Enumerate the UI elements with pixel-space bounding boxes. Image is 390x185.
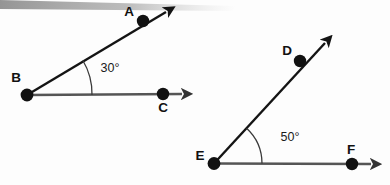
point-d-label: D (282, 43, 292, 58)
diagram-canvas: A B C 30° D E F 50° (0, 0, 390, 185)
point-e-label: E (195, 148, 204, 163)
point-a-dot (137, 15, 149, 27)
angle-measure-def: 50° (281, 130, 300, 144)
angle-diagram-figure: A B C 30° D E F 50° (0, 0, 390, 185)
point-a-label: A (124, 4, 134, 19)
point-e-dot (208, 157, 221, 170)
point-b-label: B (11, 70, 21, 85)
angle-measure-abc: 30° (101, 61, 120, 75)
point-f-label: F (347, 142, 355, 157)
point-f-dot (346, 158, 358, 170)
point-d-dot (294, 55, 306, 67)
point-b-dot (21, 89, 34, 102)
point-c-label: C (158, 100, 168, 115)
point-c-dot (157, 88, 169, 100)
